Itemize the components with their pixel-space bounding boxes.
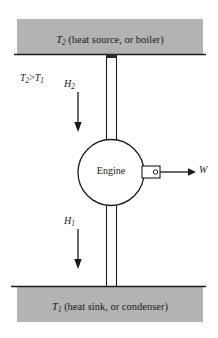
- hot-reservoir-label: T2 (heat source, or boiler): [17, 35, 203, 47]
- heat-output-arrow-head: [74, 259, 81, 269]
- heat-input-subscript: 2: [71, 83, 75, 91]
- piston-assembly: [142, 166, 160, 178]
- engine-label: Engine: [84, 166, 138, 176]
- heat-output-arrow: [74, 229, 81, 269]
- piston-knob-icon: [153, 170, 157, 174]
- hot-reservoir-description: (heat source, or boiler): [68, 34, 164, 45]
- relation-right-subscript: 1: [40, 77, 44, 85]
- upper-pipe: [106, 54, 117, 143]
- hot-reservoir-subscript: 2: [62, 39, 66, 47]
- heat-output-subscript: 1: [71, 220, 75, 228]
- heat-output-label: H1: [64, 216, 75, 228]
- upper-pipe-cap: [106, 54, 117, 58]
- cold-reservoir-description: (heat sink, or condenser): [64, 301, 168, 312]
- work-output-label: W: [199, 165, 207, 175]
- work-arrow-head: [188, 168, 196, 175]
- heat-input-arrow-head: [74, 122, 81, 132]
- cold-reservoir-subscript: 1: [58, 306, 62, 314]
- heat-input-label: H2: [64, 79, 75, 91]
- work-arrow: [160, 168, 196, 175]
- diagram-canvas: T2 (heat source, or boiler) T1 (heat sin…: [0, 0, 218, 338]
- cold-reservoir-label: T1 (heat sink, or condenser): [17, 302, 203, 314]
- heat-input-arrow: [74, 92, 81, 132]
- lower-pipe: [106, 200, 117, 287]
- temperature-relation-label: T2>T1: [20, 73, 44, 85]
